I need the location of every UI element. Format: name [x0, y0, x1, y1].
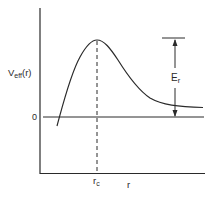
arrow-down-icon	[173, 110, 178, 117]
x-axis-label: r	[127, 179, 130, 190]
y-axis-label: Veff(r)	[8, 67, 32, 79]
rc-label: rc	[93, 175, 100, 187]
potential-curve	[57, 40, 203, 126]
effective-potential-diagram: Veff(r) 0 rc r Er	[0, 0, 214, 197]
energy-label: Er	[171, 72, 181, 85]
zero-label: 0	[32, 112, 37, 122]
arrow-up-icon	[173, 39, 178, 46]
